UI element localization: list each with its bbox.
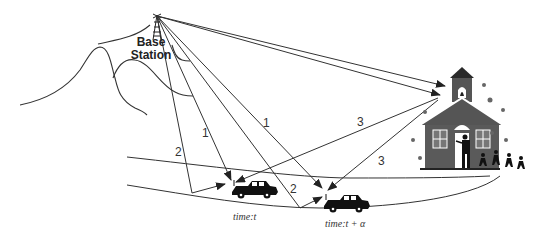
base-station-label-line2: Station <box>122 49 180 62</box>
base-station-label: Base Station <box>122 36 180 62</box>
path-label-3-reflect-car1: 3 <box>357 115 364 129</box>
multipath-diagram <box>0 0 547 237</box>
path-label-3-reflect-car2: 3 <box>378 154 385 168</box>
path-label-2-ground-car1: 2 <box>175 145 182 159</box>
schoolhouse-icon <box>411 67 525 170</box>
path-label-1-direct-car1: 1 <box>202 126 209 140</box>
path-label-2-ground-car2: 2 <box>290 182 297 196</box>
signal-paths <box>157 16 445 208</box>
car-icon-time-t-alpha <box>324 194 370 213</box>
time-label-car2: time:t + α <box>325 218 365 229</box>
car-icon-time-t <box>232 180 278 199</box>
path-label-1-direct-car2: 1 <box>263 116 270 130</box>
time-label-car1: time:t <box>233 211 256 222</box>
